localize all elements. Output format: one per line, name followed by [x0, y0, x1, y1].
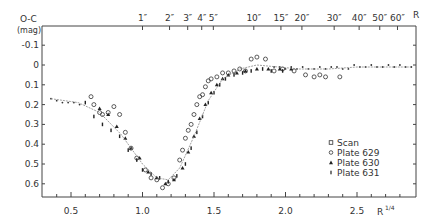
- marker-triangle: [266, 67, 270, 71]
- chart-canvas: -0.100.10.20.30.40.50.6O-C(mag)0.51.01.5…: [0, 0, 436, 221]
- marker-dot: [370, 64, 372, 66]
- marker-dot: [399, 64, 401, 66]
- marker-dot: [348, 68, 350, 70]
- x-tick-label: 1.5: [207, 206, 221, 216]
- legend-marker-plate-629: [329, 151, 333, 155]
- marker-plus: [142, 168, 143, 172]
- marker-open-circle: [198, 95, 202, 99]
- marker-dot: [79, 104, 81, 106]
- marker-plus: [168, 180, 169, 184]
- y-tick-label: 0.4: [25, 139, 40, 149]
- top-tick-label: 20″: [294, 13, 309, 23]
- marker-dot: [336, 66, 338, 68]
- marker-open-circle: [181, 148, 185, 152]
- x-tick-label: 1.0: [135, 206, 150, 216]
- marker-triangle: [181, 166, 185, 170]
- top-tick-label: 3″: [183, 13, 193, 23]
- marker-plus: [185, 162, 186, 166]
- marker-dot: [319, 66, 321, 68]
- top-tick-label: 15″: [274, 13, 289, 23]
- x-axis-title: R: [377, 207, 383, 217]
- marker-plus: [128, 148, 129, 152]
- marker-triangle: [98, 107, 102, 111]
- legend: ScanPlate 629Plate 630Plate 631: [329, 138, 380, 178]
- marker-plus: [176, 174, 177, 178]
- x-tick-label: 0.5: [64, 206, 78, 216]
- marker-open-circle: [209, 77, 213, 81]
- top-tick-label: 2″: [165, 13, 175, 23]
- marker-open-circle: [192, 113, 196, 117]
- marker-open-circle: [272, 69, 276, 73]
- marker-open-circle: [324, 75, 328, 79]
- marker-triangle: [255, 67, 259, 71]
- marker-open-circle: [89, 95, 93, 99]
- marker-plus: [262, 67, 263, 71]
- marker-plus: [271, 69, 272, 73]
- marker-dot: [62, 102, 64, 104]
- marker-plus: [196, 131, 197, 135]
- legend-label: Plate 630: [337, 158, 380, 168]
- y-tick-label: 0.2: [25, 100, 39, 110]
- series-plate-629: [89, 55, 342, 190]
- top-tick-label: 30″: [327, 13, 342, 23]
- legend-label: Plate 629: [337, 148, 380, 158]
- series-plate-631: [85, 67, 284, 183]
- top-axis-title: R: [413, 10, 419, 20]
- y-tick-label: 0.6: [25, 179, 40, 189]
- series-plate-630: [98, 67, 294, 185]
- x-tick-label: 2.5: [350, 206, 364, 216]
- marker-plus: [102, 123, 103, 127]
- marker-triangle: [289, 67, 293, 71]
- marker-open-circle: [149, 176, 153, 180]
- top-tick-label: 60″: [390, 13, 405, 23]
- marker-open-circle: [92, 103, 96, 107]
- marker-triangle: [215, 83, 219, 87]
- marker-open-circle: [118, 113, 122, 117]
- y-axis-title: O-C: [20, 14, 37, 24]
- marker-plus: [159, 176, 160, 180]
- marker-open-circle: [123, 130, 127, 134]
- marker-plus: [282, 69, 283, 73]
- y-axis-unit: (mag): [17, 26, 41, 35]
- marker-triangle: [115, 124, 119, 128]
- marker-dot: [388, 64, 390, 66]
- marker-open-circle: [186, 128, 190, 132]
- y-tick-label: 0.3: [25, 119, 39, 129]
- marker-open-circle: [232, 69, 236, 73]
- top-tick-label: 40″: [352, 13, 367, 23]
- marker-plus: [242, 71, 243, 75]
- y-tick-label: -0.1: [21, 40, 39, 50]
- marker-open-circle: [112, 105, 116, 109]
- marker-open-circle: [215, 75, 219, 79]
- marker-open-circle: [206, 79, 210, 83]
- marker-dot: [330, 66, 332, 68]
- marker-open-circle: [318, 73, 322, 77]
- top-tick-label: 10″: [246, 13, 261, 23]
- marker-open-circle: [304, 73, 308, 77]
- legend-marker-plate-630: [329, 161, 333, 165]
- marker-open-circle: [312, 75, 316, 79]
- marker-open-circle: [183, 136, 187, 140]
- legend-label: Scan: [337, 138, 359, 148]
- series-scan: [50, 64, 412, 105]
- marker-dot: [67, 102, 69, 104]
- y-tick-label: 0.5: [25, 159, 39, 169]
- marker-plus: [110, 129, 111, 133]
- marker-open-circle: [195, 103, 199, 107]
- marker-open-circle: [201, 93, 205, 97]
- marker-open-circle: [255, 55, 259, 59]
- marker-plus: [190, 146, 191, 150]
- top-tick-label: 5″: [209, 13, 219, 23]
- marker-open-circle: [189, 122, 193, 126]
- top-tick-label: 1″: [138, 13, 148, 23]
- marker-open-circle: [178, 158, 182, 162]
- marker-plus: [119, 134, 120, 138]
- marker-plus: [136, 158, 137, 162]
- marker-open-circle: [221, 71, 225, 75]
- marker-plus: [250, 69, 251, 73]
- marker-open-circle: [338, 75, 342, 79]
- marker-plus: [233, 73, 234, 77]
- top-tick-label: 4″: [197, 13, 207, 23]
- legend-label: Plate 631: [337, 168, 380, 178]
- marker-dot: [353, 64, 355, 66]
